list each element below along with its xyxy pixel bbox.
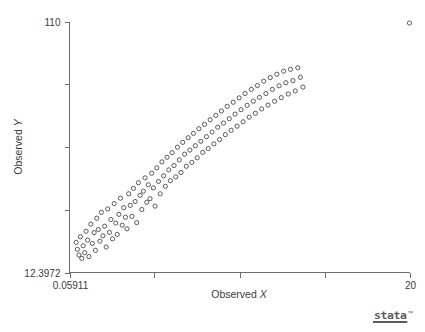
y-axis-ticks: [65, 23, 70, 274]
scatter-point: [109, 217, 113, 221]
scatter-point: [89, 222, 93, 226]
scatter-point: [286, 92, 290, 96]
scatter-point: [140, 207, 144, 211]
scatter-point: [122, 206, 126, 210]
scatter-point: [273, 99, 277, 103]
scatter-point: [206, 146, 210, 150]
scatter-point: [151, 186, 155, 190]
scatter-point: [282, 69, 286, 73]
scatter-point: [225, 104, 229, 108]
scatter-point: [103, 224, 107, 228]
axes-group: [65, 22, 411, 278]
scatter-point: [133, 199, 137, 203]
scatter-point: [136, 181, 140, 185]
scatter-point: [179, 170, 183, 174]
scatter-point: [143, 176, 147, 180]
scatter-point: [92, 231, 96, 235]
scatter-point: [183, 152, 187, 156]
scatter-point: [93, 248, 97, 252]
scatter-point: [98, 239, 102, 243]
scatter-point: [210, 130, 214, 134]
scatter-point: [163, 184, 167, 188]
scatter-point: [293, 89, 297, 93]
scatter-point: [266, 103, 270, 107]
scatter-point: [214, 113, 218, 117]
scatter-point: [291, 79, 295, 83]
scatter-point: [217, 137, 221, 141]
trademark-symbol: ™: [407, 310, 413, 316]
scatter-point: [162, 174, 166, 178]
scatter-point: [81, 244, 85, 248]
scatter-point: [160, 160, 164, 164]
scatter-point: [239, 108, 243, 112]
scatter-point: [219, 109, 223, 113]
scatter-point: [155, 166, 159, 170]
scatter-point: [407, 21, 411, 25]
scatter-point: [158, 192, 162, 196]
y-axis-tick-labels: 12.3972110: [24, 17, 61, 279]
scatter-point: [212, 142, 216, 146]
scatter-point: [165, 155, 169, 159]
scatter-point: [195, 156, 199, 160]
scatter-point: [156, 179, 160, 183]
scatter-point: [141, 189, 145, 193]
scatter-point: [175, 145, 179, 149]
scatter-point: [106, 207, 110, 211]
scatter-point: [190, 160, 194, 164]
scatter-point: [227, 117, 231, 121]
scatter-point: [251, 99, 255, 103]
stata-scatter-figure: 12.3972110 0.0591120 Observed X Observed…: [0, 0, 425, 332]
scatter-point: [257, 95, 261, 99]
scatter-point: [197, 127, 201, 131]
scatter-point: [117, 212, 121, 216]
scatter-point: [264, 91, 268, 95]
scatter-point: [247, 115, 251, 119]
scatter-point: [167, 168, 171, 172]
scatter-point: [270, 87, 274, 91]
scatter-point: [216, 125, 220, 129]
scatter-point: [172, 163, 176, 167]
scatter-plot-canvas: 12.3972110 0.0591120 Observed X Observed…: [0, 0, 425, 332]
scatter-point: [301, 85, 305, 89]
scatter-point: [110, 237, 114, 241]
scatter-point: [229, 128, 233, 132]
x-axis-tick-label: 20: [405, 280, 417, 291]
scatter-point: [107, 230, 111, 234]
scatter-point: [80, 256, 84, 260]
scatter-point: [135, 221, 139, 225]
scatter-point: [83, 251, 87, 255]
y-axis-tick-label: 110: [45, 17, 61, 28]
scatter-point: [237, 96, 241, 100]
scatter-point: [131, 186, 135, 190]
scatter-point: [223, 133, 227, 137]
scatter-point: [112, 201, 116, 205]
scatter-point: [275, 72, 279, 76]
stata-logo: stata ™: [373, 310, 413, 323]
scatter-point: [87, 254, 91, 258]
scatter-point: [95, 216, 99, 220]
scatter-point: [181, 140, 185, 144]
scatter-point: [268, 75, 272, 79]
scatter-point: [262, 79, 266, 83]
scatter-point: [150, 171, 154, 175]
scatter-point: [170, 151, 174, 155]
scatter-point: [201, 150, 205, 154]
scatter-point: [193, 144, 197, 148]
scatter-point: [90, 241, 94, 245]
scatter-point: [231, 100, 235, 104]
scatter-point: [243, 91, 247, 95]
scatter-point: [249, 87, 253, 91]
scatter-point: [153, 204, 157, 208]
x-axis-ticks: [71, 273, 411, 278]
scatter-point: [260, 107, 264, 111]
scatter-point: [174, 175, 178, 179]
scatter-point: [202, 122, 206, 126]
scatter-point: [75, 247, 79, 251]
scatter-point: [99, 210, 103, 214]
scatter-point: [74, 240, 78, 244]
scatter-point: [115, 232, 119, 236]
scatter-point: [128, 203, 132, 207]
scatter-point: [101, 234, 105, 238]
scatter-point: [184, 164, 188, 168]
scatter-point: [96, 227, 100, 231]
